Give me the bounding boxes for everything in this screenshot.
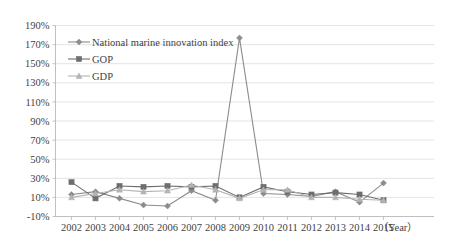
legend-label: GDP — [92, 71, 113, 82]
y-tick-label: 50% — [30, 154, 50, 165]
x-tick-label: 2011 — [277, 222, 298, 233]
y-tick-label: 110% — [25, 97, 49, 108]
x-tick-label: 2002 — [61, 222, 82, 233]
x-tick-label: 2009 — [229, 222, 250, 233]
x-tick-label: 2006 — [157, 222, 178, 233]
legend-label: GOP — [92, 54, 113, 65]
legend-label: National marine innovation index — [92, 37, 234, 48]
x-tick-label: 2013 — [325, 222, 346, 233]
x-tick-label: 2004 — [109, 222, 131, 233]
x-tick-label: 2012 — [301, 222, 322, 233]
x-tick-label: 2005 — [133, 222, 154, 233]
data-point-marker — [69, 180, 74, 185]
y-tick-label: 170% — [25, 39, 50, 50]
legend-item-1[interactable]: National marine innovation index — [68, 37, 234, 48]
x-tick-label: 2014 — [349, 222, 371, 233]
y-tick-label: 190% — [25, 20, 50, 31]
y-tick-label: 70% — [30, 135, 50, 146]
y-tick-label: 150% — [25, 58, 50, 69]
y-tick-label: 30% — [30, 173, 50, 184]
y-tick-label: -10% — [27, 211, 50, 222]
legend-marker-icon — [76, 56, 81, 61]
data-point-marker — [93, 196, 98, 201]
chart-container: 190%170%150%130%110%90%70%50%30%10%-10% … — [0, 0, 471, 239]
y-tick-label: 130% — [25, 77, 50, 88]
x-tick-label: 2008 — [205, 222, 226, 233]
x-tick-label: 2003 — [85, 222, 106, 233]
chart-background — [0, 0, 471, 239]
y-tick-label: 90% — [30, 116, 50, 127]
line-chart: 190%170%150%130%110%90%70%50%30%10%-10% … — [0, 0, 471, 239]
x-axis-title: （Year） — [378, 222, 417, 233]
x-tick-label: 2010 — [253, 222, 274, 233]
y-tick-label: 10% — [30, 192, 50, 203]
x-tick-label: 2007 — [181, 222, 202, 233]
